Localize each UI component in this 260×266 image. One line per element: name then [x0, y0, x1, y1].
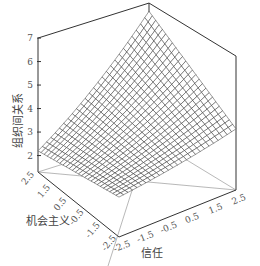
z-tick-label: 2	[27, 151, 33, 161]
z-tick-label: 4	[27, 104, 33, 114]
y-tick-label: 2.5	[19, 169, 36, 187]
y-axis-title: 机会主义	[26, 214, 70, 228]
y-tick-label: 0.5	[52, 195, 69, 213]
x-axis-title: 信任	[141, 247, 163, 260]
x-tick-label: -0.5	[159, 219, 179, 235]
y-tick-label: 1.5	[35, 182, 52, 200]
z-tick-label: 3	[27, 127, 33, 137]
z-tick-label: 6	[27, 57, 33, 67]
x-tick-label: 2.5	[230, 192, 247, 207]
z-tick-label: 5	[27, 80, 33, 90]
y-tick-label: -1.5	[83, 220, 102, 240]
x-tick-label: -1.5	[135, 229, 155, 245]
surface-plot: 2345672.51.50.5-0.5-1.5-2.5-2.5-1.5-0.50…	[0, 0, 260, 266]
z-axis-title: 组织间关系	[11, 93, 25, 148]
x-tick-label: 0.5	[184, 211, 201, 226]
x-tick-label: 1.5	[207, 201, 224, 216]
z-tick-label: 7	[27, 33, 33, 43]
surface-mesh	[38, 11, 236, 197]
